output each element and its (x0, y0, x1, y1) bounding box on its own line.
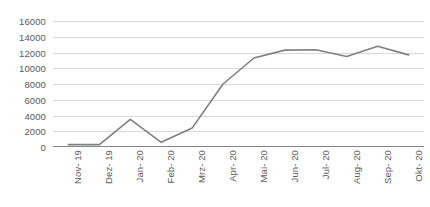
x-axis-tick-label: Mrz- 20 (196, 150, 207, 206)
y-axis-tick-label: 14000 (19, 31, 46, 42)
plot-area (53, 21, 424, 147)
x-axis-tick-label: Okt- 20 (413, 150, 424, 206)
x-axis-tick-label: Mai- 20 (258, 150, 269, 206)
x-axis-tick-label: Jul- 20 (320, 150, 331, 206)
x-axis-tick-label: Sep- 20 (382, 150, 393, 206)
x-axis-tick-label: Aug- 20 (351, 150, 362, 206)
y-axis-labels: 1600014000120001000080006000400020000 (0, 15, 50, 153)
x-axis-tick-label: Dez- 19 (103, 150, 114, 206)
y-axis-tick-label: 12000 (19, 47, 46, 58)
y-axis-tick-label: 16000 (19, 16, 46, 27)
line-chart: 1600014000120001000080006000400020000 No… (0, 0, 430, 207)
y-axis-tick-label: 4000 (24, 110, 46, 121)
y-axis-tick-label: 6000 (24, 94, 46, 105)
x-axis-tick-label: Nov- 19 (72, 150, 83, 206)
x-axis-labels: Nov- 19Dez- 19Jan- 20Feb- 20Mrz- 20Apr- … (53, 148, 424, 206)
x-axis-tick-label: Feb- 20 (165, 150, 176, 206)
x-axis-tick-label: Apr- 20 (227, 150, 238, 206)
y-axis-tick-label: 2000 (24, 126, 46, 137)
x-axis-tick-label: Jan- 20 (134, 150, 145, 206)
y-axis-tick-label: 0 (41, 142, 46, 153)
x-axis-tick-label: Jun- 20 (289, 150, 300, 206)
y-axis-tick-label: 8000 (24, 79, 46, 90)
series-line-serie-1 (53, 21, 424, 147)
y-axis-tick-label: 10000 (19, 63, 46, 74)
